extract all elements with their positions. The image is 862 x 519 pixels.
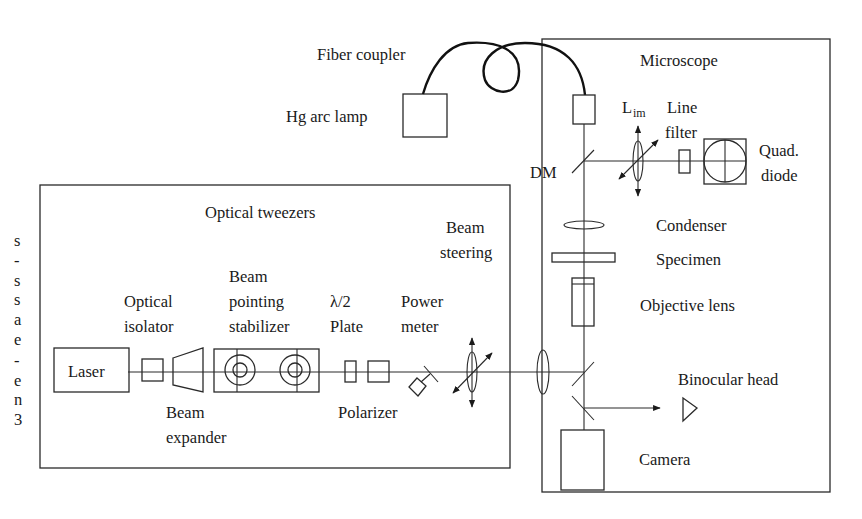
svg-text:-: - (14, 351, 20, 370)
beam-pointing-label: pointing (229, 292, 284, 311)
fiber-optic-cable (423, 43, 585, 95)
polarizer-label: Polarizer (338, 403, 398, 422)
stabilizer-detector-2 (280, 349, 310, 392)
beam-pointing-label: stabilizer (229, 317, 290, 336)
optical-isolator-label: isolator (124, 317, 174, 336)
line-filter-label: filter (665, 123, 698, 142)
beam-pointing-stabilizer-box (214, 349, 319, 392)
quad-diode-label: Quad. (759, 141, 799, 160)
half-wave-plate-label: λ/2 (330, 292, 351, 311)
svg-text:e: e (14, 330, 21, 349)
specimen-label: Specimen (656, 250, 721, 269)
beam-expander-label: expander (166, 428, 227, 447)
power-meter-label: meter (401, 317, 439, 336)
beam-pointing-label: Beam (229, 267, 268, 286)
optical-tweezers-title: Optical tweezers (205, 203, 315, 222)
optical-isolator-label: Optical (124, 292, 173, 311)
svg-text:a: a (14, 310, 22, 329)
svg-text:s: s (14, 271, 20, 290)
optical-isolator (142, 359, 163, 381)
camera-label: Camera (639, 450, 691, 469)
fiber-coupler-box (573, 95, 595, 124)
stabilizer-detector-1 (225, 349, 255, 392)
svg-text:3: 3 (14, 410, 22, 429)
beam-steering-label: steering (440, 243, 492, 262)
power-meter-pickoff (409, 366, 438, 396)
hg-arc-lamp-label: Hg arc lamp (286, 107, 368, 126)
beam-splitter-mirror (572, 362, 594, 386)
condenser-label: Condenser (656, 216, 727, 235)
quad-diode-label: diode (761, 166, 798, 185)
objective-lens-label: Objective lens (640, 296, 735, 315)
beam-expander-label: Beam (166, 403, 205, 422)
objective-lens (572, 278, 594, 326)
hg-arc-lamp-box (403, 94, 447, 137)
half-wave-plate-label: Plate (330, 317, 363, 336)
svg-text:s: s (14, 290, 20, 309)
svg-text:s: s (14, 231, 20, 250)
beam-steering-label: Beam (446, 218, 485, 237)
binocular-head-prism (683, 398, 697, 421)
beam-expander (173, 348, 203, 392)
svg-text:n: n (14, 390, 22, 409)
camera-box (561, 430, 604, 490)
binocular-head-label: Binocular head (678, 370, 779, 389)
laser-label: Laser (68, 362, 105, 381)
lim-subscript: im (633, 106, 646, 120)
optical-setup-diagram: s - s s a e - e n 3 Optical tweezers Mic… (0, 0, 862, 519)
power-meter-label: Power (401, 292, 444, 311)
svg-text:-: - (14, 251, 20, 270)
microscope-title: Microscope (640, 51, 718, 70)
margin-text: s - s s a e - e n 3 (14, 231, 22, 429)
fiber-coupler-label: Fiber coupler (317, 45, 406, 64)
lim-label: L (622, 98, 632, 117)
line-filter-label: Line (667, 98, 697, 117)
svg-text:e: e (14, 371, 21, 390)
dm-label: DM (530, 163, 557, 182)
